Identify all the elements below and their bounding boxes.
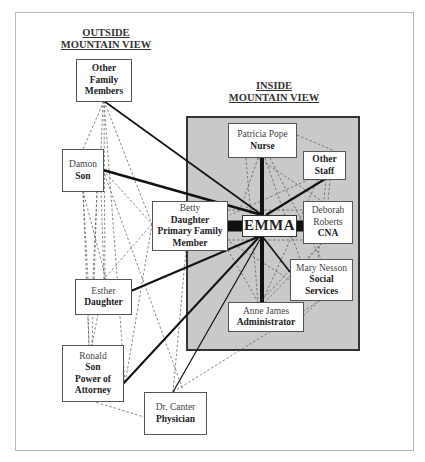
node-role: Member — [173, 238, 208, 250]
node-patricia-pope-nurse: Patricia Pope Nurse — [228, 123, 297, 158]
node-damon-son: Damon Son — [62, 149, 104, 192]
node-role: Administrator — [237, 317, 296, 329]
node-name-2: Roberts — [313, 217, 343, 229]
node-name: Patricia Pope — [237, 129, 287, 141]
node-other-family-members: Other Family Members — [76, 59, 132, 102]
node-role: Services — [305, 286, 338, 298]
node-name: Damon — [69, 159, 97, 171]
node-mary-nesson-social-services: Mary Nesson Social Services — [290, 259, 353, 301]
node-name: Mary Nesson — [296, 263, 347, 275]
node-role: Son — [85, 362, 100, 374]
node-name: Esther — [91, 286, 115, 298]
node-role: Primary Family — [157, 226, 222, 238]
node-name: Betty — [180, 203, 201, 215]
node-role: Nurse — [250, 141, 274, 153]
center-label: EMMA — [244, 220, 295, 232]
node-role: Staff — [315, 166, 335, 178]
node-ronald-son: Ronald Son Power of Attorney — [62, 345, 124, 402]
node-esther-daughter: Esther Daughter — [75, 279, 132, 315]
node-role: Family — [90, 75, 119, 87]
node-role: Social — [309, 274, 333, 286]
node-name: Ronald — [79, 351, 106, 363]
node-role: Daughter — [171, 215, 210, 227]
node-betty-daughter: Betty Daughter Primary Family Member — [152, 201, 228, 251]
node-role: Power of — [75, 374, 111, 386]
node-emma-center: EMMA — [242, 215, 297, 237]
node-role: Son — [75, 171, 90, 183]
node-other-staff: Other Staff — [303, 151, 346, 180]
node-role: CNA — [318, 228, 339, 240]
node-role: Other — [92, 63, 116, 75]
node-deborah-roberts-cna: Deborah Roberts CNA — [303, 201, 353, 244]
node-role: Other — [312, 154, 336, 166]
node-name: Dr. Canter — [156, 402, 196, 414]
node-anne-james-administrator: Anne James Administrator — [228, 302, 304, 332]
node-role: Attorney — [75, 385, 111, 397]
node-name: Deborah — [312, 205, 345, 217]
node-role: Members — [85, 86, 124, 98]
node-role: Physician — [156, 414, 195, 426]
node-dr-canter-physician: Dr. Canter Physician — [144, 392, 207, 435]
node-name: Anne James — [243, 306, 289, 318]
node-role: Daughter — [84, 297, 123, 309]
